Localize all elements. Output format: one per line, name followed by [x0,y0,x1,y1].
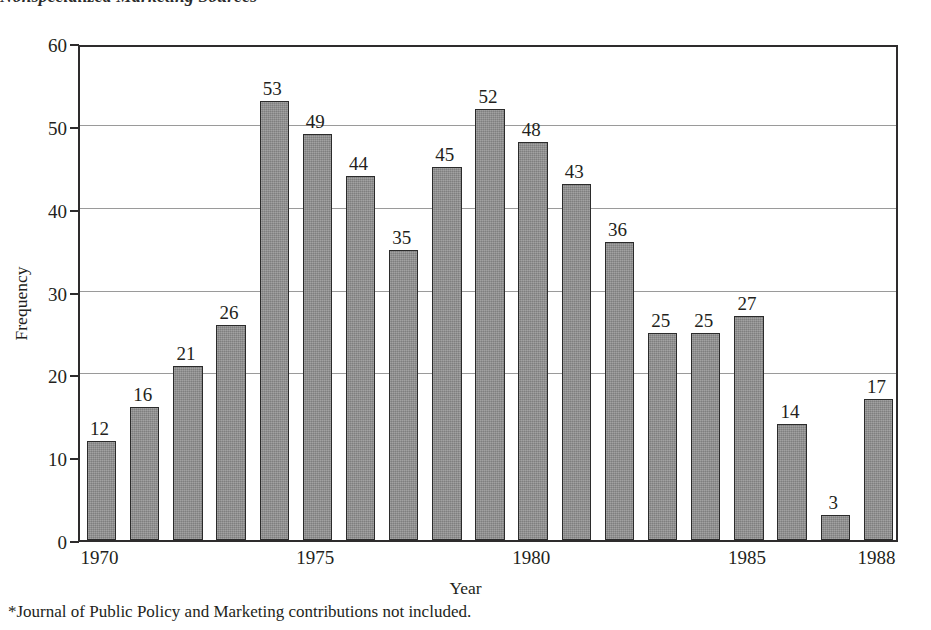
bar [303,134,332,540]
bar-value-label: 44 [349,154,368,173]
y-axis-tick-mark [70,458,79,460]
y-axis-tick-label: 30 [21,284,67,303]
footnote: *Journal of Public Policy and Marketing … [8,602,471,622]
bar [518,142,547,540]
bar-value-label: 36 [608,220,627,239]
bar [691,333,720,540]
bar-value-label: 3 [829,493,839,512]
y-axis-tick-mark [70,44,79,46]
y-axis-tick-label: 40 [21,201,67,220]
bar [734,316,763,540]
chart-title: Nonspecialized Marketing Sources [0,0,931,8]
bar-value-label: 14 [781,402,800,421]
bar-value-label: 17 [867,377,886,396]
bar-value-label: 49 [306,112,325,131]
bar [432,167,461,540]
y-axis-tick-mark [70,127,79,129]
y-axis-tick-label: 0 [21,533,67,552]
bar [605,242,634,540]
x-axis-tick-label: 1980 [512,548,550,567]
x-axis-tick-label: 1970 [81,548,119,567]
bar-value-label: 35 [392,228,411,247]
bar [562,184,591,540]
bar [475,109,504,540]
bar [864,399,893,540]
bar [216,325,245,540]
bar [777,424,806,540]
bar [173,366,202,540]
x-axis-title: Year [0,578,931,599]
bar-value-label: 25 [651,311,670,330]
bar-value-label: 12 [90,419,109,438]
bar-value-label: 26 [220,303,239,322]
y-axis-tick-label: 20 [21,367,67,386]
bar-value-label: 52 [479,87,498,106]
y-axis-tick-mark [70,375,79,377]
bar [260,101,289,540]
bar [389,250,418,540]
bar-value-label: 53 [263,79,282,98]
y-axis-tick-mark [70,210,79,212]
bar-value-label: 48 [522,120,541,139]
bar [130,407,159,540]
bar [87,441,116,540]
y-axis-tick-mark [70,293,79,295]
bar-value-label: 27 [737,294,756,313]
bar-value-label: 45 [435,145,454,164]
y-axis-tick-label: 50 [21,118,67,137]
bar-value-label: 21 [176,344,195,363]
y-axis-tick-label: 10 [21,450,67,469]
x-axis-tick-label: 1985 [728,548,766,567]
y-axis-tick-label: 60 [21,36,67,55]
bar [648,333,677,540]
bar [346,176,375,540]
bar [821,515,850,540]
plot-area [78,45,898,542]
y-axis-title: Frequency [11,239,32,369]
bar-value-label: 25 [694,311,713,330]
x-axis-tick-label: 1988 [857,548,895,567]
y-axis-tick-mark [70,541,79,543]
bar-value-label: 43 [565,162,584,181]
bar-value-label: 16 [133,385,152,404]
x-axis-tick-label: 1975 [296,548,334,567]
